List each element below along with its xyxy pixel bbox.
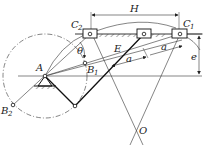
- joint-B: [73, 104, 77, 108]
- mechanism-diagram: H C 2 C 1 θ E a a A B 1 B 2 e O: [0, 0, 205, 149]
- slider-C1: [172, 29, 187, 38]
- label-B2-sub: 2: [7, 110, 13, 118]
- label-B1-sub: 1: [94, 69, 98, 77]
- diagram-canvas: H C 2 C 1 θ E a a A B 1 B 2 e O: [0, 0, 205, 149]
- stroke-dimension-H: [91, 12, 179, 34]
- joint-B2: [11, 103, 15, 107]
- label-theta: θ: [77, 45, 83, 56]
- slider-middle: [137, 29, 151, 38]
- label-O: O: [139, 125, 147, 136]
- label-C2-sub: 2: [77, 24, 83, 32]
- coupler-arc: [96, 22, 176, 31]
- label-A: A: [35, 62, 43, 73]
- slider-C2: [83, 29, 97, 38]
- joint-A: [43, 74, 47, 78]
- line-C1-O: [130, 34, 180, 145]
- label-E: E: [113, 43, 122, 54]
- label-a-lower: a: [126, 53, 132, 64]
- line-A-C1: [45, 34, 180, 76]
- label-e: e: [191, 51, 197, 62]
- label-H: H: [129, 3, 139, 14]
- label-a-upper: a: [161, 41, 167, 52]
- label-C1-sub: 1: [190, 23, 194, 31]
